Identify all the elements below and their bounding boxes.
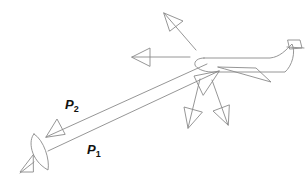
label-p1-main: P [87, 142, 96, 157]
label-p2: P2 [65, 98, 79, 114]
aircraft-icon [195, 40, 304, 82]
scatter-arrow-down-right [212, 80, 229, 125]
radar-diagram [0, 0, 306, 179]
label-p2-main: P [65, 97, 74, 112]
scatter-arrow-up-left [164, 13, 196, 50]
radar-dish-icon [20, 134, 48, 173]
scatter-arrow-left [132, 48, 190, 66]
label-p1-sub: 1 [96, 149, 101, 159]
label-p2-sub: 2 [74, 104, 79, 114]
label-p1: P1 [87, 143, 101, 159]
